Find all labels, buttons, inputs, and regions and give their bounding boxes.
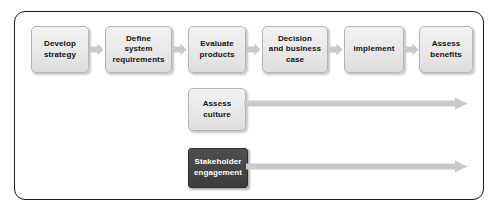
track-box-label: Stakeholder engagement (194, 157, 242, 178)
connector-arrow-4 (329, 43, 342, 56)
track-box-assess-culture[interactable]: Assess culture (188, 88, 246, 131)
process-box-label: Develop strategy (44, 39, 76, 60)
connector-arrow-3 (247, 43, 260, 56)
diagram-frame: Develop strategy Define system requireme… (14, 11, 484, 200)
track-box-stakeholder-engagement[interactable]: Stakeholder engagement (188, 148, 248, 188)
process-box-label: Decision and business case (269, 34, 321, 66)
process-box-assess-benefits[interactable]: Assess benefits (419, 26, 473, 73)
process-flow-diagram: Develop strategy Define system requireme… (0, 0, 499, 212)
process-box-label: Evaluate products (199, 39, 234, 60)
connector-arrow-2 (173, 43, 186, 56)
track-box-label: Assess culture (203, 99, 232, 120)
process-box-implement[interactable]: implement (344, 26, 404, 73)
process-box-evaluate-products[interactable]: Evaluate products (188, 26, 246, 73)
process-box-label: Assess benefits (430, 39, 461, 60)
process-box-develop-strategy[interactable]: Develop strategy (31, 26, 89, 73)
connector-arrow-1 (90, 43, 103, 56)
process-box-define-system-requirements[interactable]: Define system requirements (105, 26, 172, 73)
process-box-decision-and-business-case[interactable]: Decision and business case (262, 26, 328, 73)
track-arrow-stakeholder-engagement (246, 160, 468, 173)
process-box-label: Define system requirements (113, 34, 165, 66)
process-box-label: implement (354, 44, 395, 55)
connector-arrow-5 (405, 43, 418, 56)
track-arrow-assess-culture (244, 97, 468, 110)
